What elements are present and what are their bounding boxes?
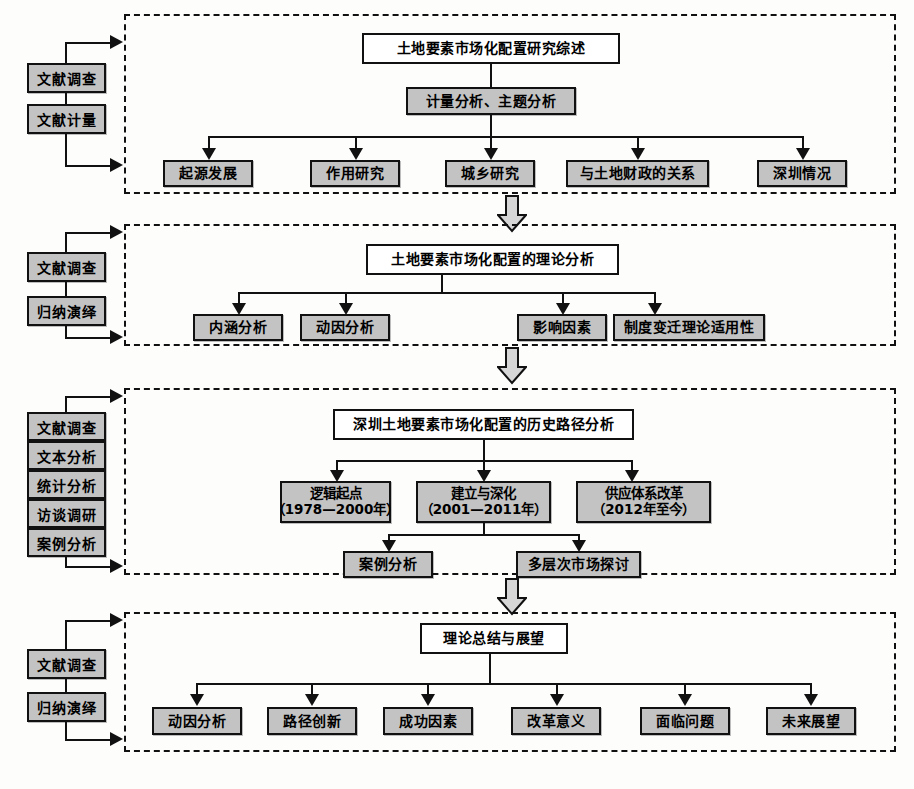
stage-4-leaf-0[interactable]: 动因分析	[152, 707, 242, 735]
leaf-label: 成功因素	[399, 713, 457, 730]
flowchart-canvas: 文献调查 文献计量 土地要素市场化配置研究综述 计量分析、主题分析 起源发展 作…	[0, 0, 914, 789]
leaf-label: 未来展望	[782, 713, 840, 730]
stage-4-leaf-1[interactable]: 路径创新	[267, 707, 357, 735]
stage-1-leaf-3[interactable]: 与土地财政的关系	[566, 160, 709, 187]
stage-1-rail-top-riser	[65, 42, 67, 63]
stage-2-leaf-0[interactable]: 内涵分析	[193, 314, 283, 341]
leaf-label: 起源发展	[179, 165, 237, 182]
stage-1-rail-top-run	[65, 42, 112, 44]
stage-2-bus	[238, 292, 656, 294]
stage-4-rail-top-arrowhead	[110, 613, 123, 627]
stage-1-method-1[interactable]: 文献计量	[27, 104, 106, 134]
stage-1-arrowhead-0	[202, 148, 216, 160]
stage-1-title-to-method	[490, 64, 492, 87]
stage-1-title-label: 土地要素市场化配置研究综述	[397, 40, 586, 57]
leaf-label: 多层次市场探讨	[528, 556, 630, 573]
stage-2-method-0[interactable]: 文献调查	[27, 252, 106, 282]
method-label: 归纳演绎	[37, 697, 97, 717]
stage-1-arrowhead-3	[631, 148, 645, 160]
stage-2-rail-top-arrowhead	[110, 225, 123, 239]
stage-2-leaf-2[interactable]: 影响因素	[517, 314, 607, 341]
phase-name: 建立与深化	[451, 486, 516, 502]
phase-name: 逻辑起点	[310, 486, 362, 502]
method-label: 文本分析	[37, 446, 97, 466]
stage-4-arrowhead-3	[550, 694, 564, 706]
stage-4-method-0[interactable]: 文献调查	[27, 649, 106, 679]
leaf-label: 深圳情况	[773, 165, 831, 182]
stage-4-title[interactable]: 理论总结与展望	[420, 623, 568, 654]
stage-1-rail-bottom-arrowhead	[110, 158, 123, 172]
stage-2-title[interactable]: 土地要素市场化配置的理论分析	[366, 244, 619, 275]
stage-3-method-0[interactable]: 文献调查	[27, 412, 106, 441]
stage-1-leaf-1[interactable]: 作用研究	[310, 160, 400, 187]
stage-2-rail-top-run	[65, 232, 112, 234]
stage-1-method-node-label: 计量分析、主题分析	[426, 93, 557, 110]
stage-2-method-1[interactable]: 归纳演绎	[27, 296, 106, 326]
stage-3-subleaf-1[interactable]: 多层次市场探讨	[516, 551, 641, 578]
stage-3-method-2[interactable]: 统计分析	[27, 470, 106, 499]
stage-2-leaf-3[interactable]: 制度变迁理论适用性	[613, 314, 765, 341]
stage-1-leaf-2[interactable]: 城乡研究	[445, 160, 535, 187]
stage-3-rail-bottom-arrowhead	[110, 559, 123, 573]
stage-4-arrowhead-0	[190, 694, 204, 706]
stage-3-rail-bottom-run	[65, 566, 112, 568]
stage-3-phase-2[interactable]: 供应体系改革 （2012年至今）	[576, 481, 711, 523]
leaf-label: 作用研究	[326, 165, 384, 182]
stage-2-rail-bottom-run	[65, 337, 112, 339]
stage-4-rail-bottom-arrowhead	[110, 732, 123, 746]
stage-1-bus	[208, 136, 804, 138]
stage-1-rail-bottom-riser	[65, 134, 67, 167]
stage-3-method-1[interactable]: 文本分析	[27, 441, 106, 470]
leaf-label: 动因分析	[316, 319, 374, 336]
stage-4-rail-top-run	[65, 620, 112, 622]
stage-1-method-node[interactable]: 计量分析、主题分析	[406, 87, 576, 115]
method-label: 统计分析	[37, 475, 97, 495]
leaf-label: 与土地财政的关系	[580, 165, 696, 182]
stage-1-leaf-4[interactable]: 深圳情况	[757, 160, 847, 187]
stage-4-leaf-4[interactable]: 面临问题	[640, 707, 730, 735]
stage-1-arrowhead-1	[349, 148, 363, 160]
stage-3-method-3[interactable]: 访谈调研	[27, 499, 106, 528]
stage-3-title-label: 深圳土地要素市场化配置的历史路径分析	[353, 416, 614, 433]
stage-4-arrowhead-4	[678, 694, 692, 706]
stage-2-rail-bottom-arrowhead	[110, 330, 123, 344]
stage-3-rail-top-arrowhead	[110, 389, 123, 403]
stage-1-rail-top-arrowhead	[110, 35, 123, 49]
stage-2-leaf-1[interactable]: 动因分析	[300, 314, 390, 341]
stage-connector-arrow-2	[497, 347, 527, 385]
leaf-label: 内涵分析	[209, 319, 267, 336]
method-label: 文献调查	[37, 68, 97, 88]
stage-4-title-label: 理论总结与展望	[443, 630, 545, 647]
stage-3-bus-drop	[483, 440, 485, 461]
stage-3-phase-0[interactable]: 逻辑起点 （1978—2000年）	[280, 481, 391, 523]
stage-3-phase-1[interactable]: 建立与深化 （2001—2011年）	[416, 481, 551, 523]
stage-4-rail-spine	[65, 679, 67, 692]
leaf-label: 面临问题	[656, 713, 714, 730]
stage-1-leaf-0[interactable]: 起源发展	[163, 160, 253, 187]
stage-1-method-0[interactable]: 文献调查	[27, 63, 106, 93]
method-label: 文献计量	[37, 109, 97, 129]
stage-1-title[interactable]: 土地要素市场化配置研究综述	[362, 33, 620, 64]
method-label: 文献调查	[37, 257, 97, 277]
stage-2-bus-drop	[441, 275, 443, 293]
phase-name: 供应体系改革	[605, 486, 683, 502]
leaf-label: 动因分析	[168, 713, 226, 730]
leaf-label: 制度变迁理论适用性	[624, 319, 755, 336]
stage-3-rail-top-run	[65, 396, 112, 398]
stage-1-bus-drop	[490, 115, 492, 137]
stage-4-leaf-5[interactable]: 未来展望	[766, 707, 856, 735]
stage-4-method-1[interactable]: 归纳演绎	[27, 692, 106, 722]
phase-period: （2001—2011年）	[420, 502, 548, 518]
stage-3-subleaf-0[interactable]: 案例分析	[343, 551, 433, 578]
leaf-label: 城乡研究	[461, 165, 519, 182]
stage-4-leaf-2[interactable]: 成功因素	[383, 707, 473, 735]
stage-3-title[interactable]: 深圳土地要素市场化配置的历史路径分析	[333, 409, 634, 440]
method-label: 案例分析	[37, 533, 97, 553]
leaf-label: 影响因素	[533, 319, 591, 336]
stage-3-method-4[interactable]: 案例分析	[27, 528, 106, 557]
stage-1-rail-spine	[65, 93, 67, 104]
method-label: 文献调查	[37, 654, 97, 674]
method-label: 归纳演绎	[37, 301, 97, 321]
stage-3-rail-top-riser	[65, 396, 67, 413]
stage-4-leaf-3[interactable]: 改革意义	[511, 707, 601, 735]
